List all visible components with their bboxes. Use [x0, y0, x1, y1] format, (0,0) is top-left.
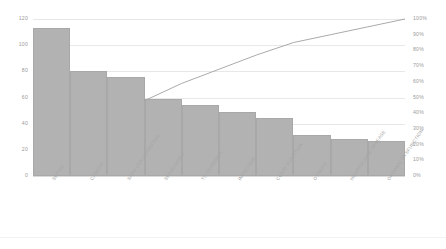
y-axis-left-tick: 20 — [22, 147, 28, 152]
y-axis-right-tick: 0% — [413, 173, 421, 178]
y-axis-left-tick: 40 — [22, 121, 28, 126]
y-axis-right-tick: 80% — [413, 47, 424, 52]
pareto-chart: 020406080100120 0%10%20%30%40%50%60%70%8… — [0, 0, 446, 249]
footer-divider — [0, 237, 446, 238]
y-axis-right-tick: 50% — [413, 95, 424, 100]
y-axis-left-tick: 100 — [19, 42, 28, 47]
y-axis-right-tick: 40% — [413, 110, 424, 115]
y-axis-right: 0%10%20%30%40%50%60%70%80%90%100% — [409, 0, 446, 249]
y-axis-right-tick: 70% — [413, 63, 424, 68]
y-axis-right-tick: 60% — [413, 79, 424, 84]
y-axis-left-tick: 0 — [25, 173, 28, 178]
y-axis-right-tick: 100% — [413, 16, 427, 21]
y-axis-left-tick: 80 — [22, 68, 28, 73]
y-axis-right-tick: 90% — [413, 32, 424, 37]
y-axis-right-tick: 10% — [413, 157, 424, 162]
y-axis-left: 020406080100120 — [0, 0, 31, 249]
y-axis-left-tick: 60 — [22, 95, 28, 100]
y-axis-left-tick: 120 — [19, 16, 28, 21]
x-axis-category-labels: SEPSISCANCERSARS COV-2 POSITIVESEROLOGIE… — [33, 176, 405, 249]
